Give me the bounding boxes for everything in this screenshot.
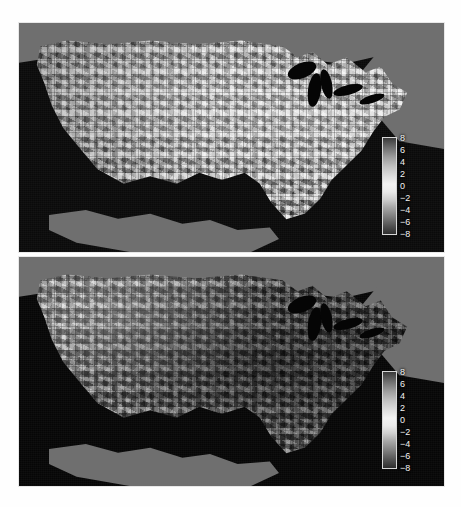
colorbar-tick: 6: [400, 379, 430, 390]
figure-container: 8 6 4 2 0 −2 −4 −6 −8: [18, 22, 445, 489]
colorbar-tick: 2: [400, 169, 430, 180]
colorbar-ticklabels-upper: 8 6 4 2 0 −2 −4 −6 −8: [400, 133, 434, 239]
page-canvas: 8 6 4 2 0 −2 −4 −6 −8: [0, 0, 461, 507]
colorbar-tick: 4: [400, 391, 430, 402]
colorbar-ticklabels-lower: 8 6 4 2 0 −2 −4 −6 −8: [400, 367, 434, 473]
colorbar-tick: −6: [400, 217, 430, 228]
choropleth-map-lower: 8 6 4 2 0 −2 −4 −6 −8: [18, 256, 445, 487]
colorbar-tick: 8: [400, 367, 430, 378]
choropleth-map-upper: 8 6 4 2 0 −2 −4 −6 −8: [18, 22, 445, 253]
colorbar-tick: 0: [400, 415, 430, 426]
colorbar-gradient-lower: [382, 371, 397, 469]
colorbar-lower: 8 6 4 2 0 −2 −4 −6 −8: [382, 371, 434, 477]
running-header: [0, 0, 461, 12]
colorbar-tick: 0: [400, 181, 430, 192]
colorbar-tick: −4: [400, 205, 430, 216]
colorbar-tick: −8: [400, 229, 430, 240]
colorbar-gradient-upper: [382, 137, 397, 235]
colorbar-tick: −6: [400, 451, 430, 462]
colorbar-tick: 4: [400, 157, 430, 168]
colorbar-tick: −4: [400, 439, 430, 450]
colorbar-tick: −8: [400, 463, 430, 474]
colorbar-tick: 8: [400, 133, 430, 144]
colorbar-upper: 8 6 4 2 0 −2 −4 −6 −8: [382, 137, 434, 243]
colorbar-tick: −2: [400, 427, 430, 438]
colorbar-tick: −2: [400, 193, 430, 204]
colorbar-tick: 6: [400, 145, 430, 156]
colorbar-tick: 2: [400, 403, 430, 414]
